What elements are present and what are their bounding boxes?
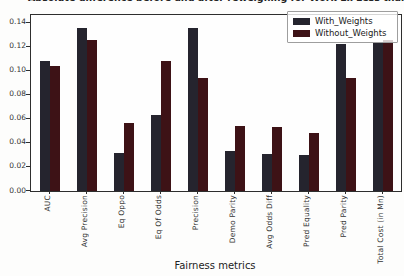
x-tick-label: Pred Parity <box>339 195 348 238</box>
bar-with_weights <box>336 44 346 191</box>
y-tick-mark <box>26 142 30 143</box>
without-weights-swatch-icon <box>293 30 310 37</box>
bar-with_weights <box>114 153 124 191</box>
bar-without_weights <box>309 133 319 191</box>
y-tick-label: 0.00 <box>0 186 26 195</box>
y-tick-mark <box>26 118 30 119</box>
bar-with_weights <box>77 28 87 191</box>
x-tick-mark <box>197 191 198 194</box>
y-tick-mark <box>26 94 30 95</box>
x-tick-mark <box>345 191 346 194</box>
bar-with_weights <box>188 28 198 191</box>
x-tick-mark <box>382 191 383 194</box>
legend-label: Without_Weights <box>315 28 387 38</box>
x-tick-label: Avg Odds Diff <box>265 195 274 249</box>
x-tick-label: Precision <box>191 195 200 230</box>
x-tick-mark <box>271 191 272 194</box>
bar-without_weights <box>346 78 356 191</box>
bar-without_weights <box>87 40 97 191</box>
x-tick-label: AUC <box>43 195 52 211</box>
x-tick-mark <box>86 191 87 194</box>
y-tick-label: 0.14 <box>0 17 26 26</box>
x-tick-label: Demo Parity <box>228 195 237 243</box>
with-weights-swatch-icon <box>293 18 310 25</box>
bar-with_weights <box>262 154 272 191</box>
y-tick-mark <box>26 70 30 71</box>
y-tick-label: 0.08 <box>0 89 26 98</box>
x-axis-title: Fairness metrics <box>30 260 400 271</box>
x-tick-label: Pred Equality <box>302 195 311 247</box>
y-tick-mark <box>26 166 30 167</box>
chart-title: Absolute difference before and after rew… <box>28 0 400 3</box>
bar-with_weights <box>225 151 235 191</box>
legend: With_Weights Without_Weights <box>287 11 398 43</box>
y-tick-mark <box>26 190 30 191</box>
legend-label: With_Weights <box>315 16 373 26</box>
bar-without_weights <box>235 126 245 191</box>
y-tick-label: 0.06 <box>0 113 26 122</box>
bar-with_weights <box>151 115 161 191</box>
y-tick-label: 0.04 <box>0 137 26 146</box>
bar-with_weights <box>299 155 309 191</box>
x-tick-mark <box>308 191 309 194</box>
x-tick-label: Avg Precision <box>80 195 89 247</box>
y-tick-mark <box>26 46 30 47</box>
bar-without_weights <box>383 40 393 191</box>
x-tick-mark <box>123 191 124 194</box>
x-tick-mark <box>234 191 235 194</box>
legend-entry-without-weights: Without_Weights <box>293 27 392 39</box>
y-tick-mark <box>26 22 30 23</box>
y-tick-label: 0.10 <box>0 65 26 74</box>
bar-without_weights <box>272 127 282 191</box>
y-tick-label: 0.02 <box>0 161 26 170</box>
x-tick-label: Eq Of Odds <box>154 195 163 239</box>
bar-without_weights <box>50 66 60 191</box>
bar-without_weights <box>161 61 171 191</box>
bar-with_weights <box>373 43 383 191</box>
x-tick-label: Total Cost (in Mn) <box>376 195 385 264</box>
legend-entry-with-weights: With_Weights <box>293 15 392 27</box>
bar-without_weights <box>124 123 134 191</box>
x-tick-label: Eq Oppo <box>117 195 126 228</box>
x-tick-mark <box>49 191 50 194</box>
bar-chart-figure: Absolute difference before and after rew… <box>0 0 404 276</box>
x-tick-mark <box>160 191 161 194</box>
y-tick-label: 0.12 <box>0 41 26 50</box>
bar-with_weights <box>40 61 50 191</box>
bar-without_weights <box>198 78 208 191</box>
